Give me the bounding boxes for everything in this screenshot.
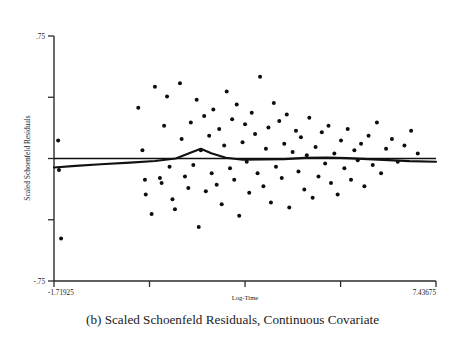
x-axis-ticks [54,281,436,287]
data-point [342,166,346,170]
data-point [320,130,324,134]
data-point [144,192,148,196]
data-point [241,140,245,144]
data-point [160,181,164,185]
data-point [215,183,219,187]
data-point [180,137,184,141]
data-point [56,139,60,143]
data-point [207,134,211,138]
data-point [332,152,336,156]
data-point [189,121,193,125]
data-point [277,119,281,123]
data-point [173,207,177,211]
data-point [282,142,286,146]
data-point [305,153,309,157]
data-point [416,152,420,156]
data-point [264,147,268,151]
data-point [359,142,363,146]
data-point [57,168,61,172]
figure-caption-row: (b) Scaled Schoenfeld Residuals, Continu… [0,310,465,328]
data-point [165,94,169,98]
y-axis-tick-labels: .75-.75 [34,33,46,286]
data-point [237,214,241,218]
data-point [178,81,182,85]
data-point [294,129,298,133]
y-tick-label: .75 [36,33,45,41]
data-point [316,174,320,178]
data-point [217,127,221,131]
data-point [291,150,295,154]
data-point [183,174,187,178]
data-point [329,181,333,185]
data-point [258,75,262,79]
x-axis-label: Log-Time [232,294,259,301]
data-point [307,116,311,120]
data-point [375,121,379,125]
data-point [339,139,343,143]
data-point [367,134,371,138]
data-point [228,166,232,170]
data-point [296,170,300,174]
data-point [243,122,247,126]
data-point [195,98,199,102]
data-point [253,132,257,136]
data-point [287,206,291,210]
figure-container: .75-.75 -1.719257.43675 Log-Time Scaled … [0,0,465,339]
data-point [210,171,214,175]
data-point [266,125,270,129]
data-point [285,112,289,116]
data-point [150,212,154,216]
data-point [204,189,208,193]
data-point [153,85,157,89]
data-point [409,129,413,133]
x-tick-label: 7.43675 [413,289,437,297]
y-tick-label: -.75 [34,278,46,286]
data-point [247,191,251,195]
data-point [326,124,330,128]
data-point [379,171,383,175]
y-axis-label: Scaled Schoenfeld Residuals [23,115,32,201]
data-point [299,135,303,139]
data-point [371,163,375,167]
data-point [402,143,406,147]
data-point [311,196,315,200]
data-point [256,171,260,175]
data-point [197,225,201,229]
data-point [225,90,229,94]
data-point [211,108,215,112]
data-point [59,237,63,241]
data-point [390,137,394,141]
data-point [158,176,162,180]
data-point [162,124,166,128]
data-point [235,103,239,107]
figure-caption: (b) Scaled Schoenfeld Residuals, Continu… [86,312,379,327]
data-point [302,188,306,192]
data-point [191,163,195,167]
data-point [261,184,265,188]
data-point [362,184,366,188]
data-point [269,201,273,205]
data-point [220,202,224,206]
data-point [140,148,144,152]
data-point [232,178,236,182]
scatter-plot: .75-.75 -1.719257.43675 Log-Time Scaled … [0,0,465,339]
data-point [314,145,318,149]
data-point [336,192,340,196]
data-point [202,114,206,118]
x-tick-label: -1.71925 [48,289,74,297]
data-points [56,75,420,241]
data-point [384,147,388,151]
data-point [349,178,353,182]
y-axis-ticks [48,36,54,281]
data-point [230,117,234,121]
data-point [272,101,276,105]
data-point [143,178,147,182]
data-point [346,127,350,131]
data-point [168,165,172,169]
data-point [352,148,356,152]
data-point [170,197,174,201]
data-point [136,106,140,110]
data-point [280,176,284,180]
data-point [222,143,226,147]
data-point [274,165,278,169]
